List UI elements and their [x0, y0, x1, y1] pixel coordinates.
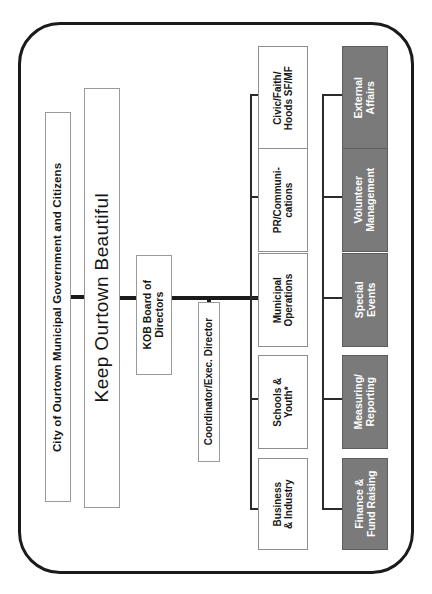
- node-committee-pr-communications[interactable]: PR/Communi- cations: [258, 148, 308, 252]
- node-coordinator-exec-director[interactable]: Coordinator/Exec. Director: [198, 302, 220, 462]
- node-function-special-events[interactable]: Special Events: [342, 253, 388, 347]
- connector-function-branch-1: [322, 94, 343, 96]
- connector-function-trunk: [322, 94, 324, 510]
- node-committee-schools-youth-label: Schools & Youth*: [272, 378, 294, 427]
- connector-board-spine: [172, 296, 262, 300]
- node-keep-ourtown-beautiful[interactable]: Keep Ourtown Beautiful: [84, 88, 120, 508]
- node-kob-board-of-directors-label: KOB Board of Directors: [142, 280, 166, 349]
- connector-city-to-kob: [71, 295, 84, 299]
- connector-function-branch-5: [322, 508, 343, 510]
- node-function-measuring-reporting[interactable]: Measuring/ Reporting: [342, 355, 388, 449]
- node-committee-civic-faith[interactable]: Civic/Faith/ Hoods SF/MF: [258, 46, 308, 150]
- connector-function-branch-3: [322, 297, 343, 299]
- node-kob-board-of-directors[interactable]: KOB Board of Directors: [136, 255, 172, 375]
- connector-function-branch-2: [322, 196, 343, 198]
- node-function-external-affairs-label: External Affairs: [353, 77, 377, 118]
- node-coordinator-exec-director-label: Coordinator/Exec. Director: [203, 318, 214, 445]
- node-function-volunteer-management-label: Volunteer Management: [353, 168, 377, 232]
- node-committee-business-industry-label: Business & Industry: [272, 479, 294, 528]
- node-keep-ourtown-beautiful-label: Keep Ourtown Beautiful: [91, 193, 112, 402]
- node-committee-pr-communications-label: PR/Communi- cations: [272, 167, 294, 233]
- node-function-external-affairs[interactable]: External Affairs: [342, 46, 388, 150]
- node-committee-business-industry[interactable]: Business & Industry: [258, 458, 308, 550]
- node-city-government-label: City of Ourtown Municipal Government and…: [52, 162, 65, 451]
- node-committee-civic-faith-label: Civic/Faith/ Hoods SF/MF: [272, 66, 294, 130]
- node-committee-municipal-operations[interactable]: Municipal Operations: [258, 253, 308, 347]
- org-chart-canvas: City of Ourtown Municipal Government and…: [0, 0, 432, 594]
- node-city-government[interactable]: City of Ourtown Municipal Government and…: [45, 112, 71, 502]
- node-function-special-events-label: Special Events: [353, 282, 377, 319]
- connector-kob-to-board: [120, 296, 136, 300]
- node-committee-schools-youth[interactable]: Schools & Youth*: [258, 355, 308, 449]
- node-function-finance-fund-raising[interactable]: Finance & Fund Raising: [342, 458, 388, 550]
- node-committee-municipal-operations-label: Municipal Operations: [272, 274, 294, 327]
- connector-committee-trunk: [250, 94, 252, 510]
- node-function-measuring-reporting-label: Measuring/ Reporting: [353, 374, 377, 429]
- node-function-finance-fund-raising-label: Finance & Fund Raising: [353, 471, 377, 538]
- connector-function-branch-4: [322, 398, 343, 400]
- node-function-volunteer-management[interactable]: Volunteer Management: [342, 148, 388, 252]
